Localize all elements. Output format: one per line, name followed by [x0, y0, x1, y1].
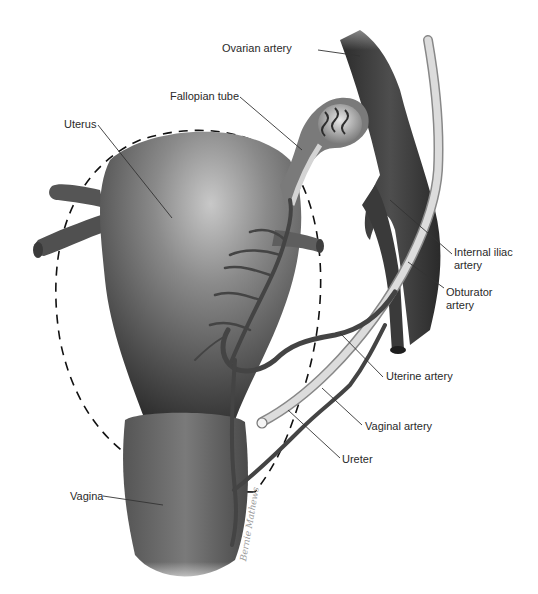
label-vaginal-artery: Vaginal artery: [365, 420, 432, 433]
ligament-stubs: [33, 184, 110, 258]
label-fallopian-tube: Fallopian tube: [170, 90, 239, 103]
fallopian-tube-ovary: [280, 98, 369, 215]
label-obturator-line1: Obturator: [446, 286, 492, 299]
label-internal-iliac-line1: Internal iliac: [454, 246, 513, 259]
label-vagina: Vagina: [70, 490, 103, 503]
label-uterine-artery: Uterine artery: [386, 370, 453, 383]
label-uterus: Uterus: [64, 118, 96, 131]
label-obturator-line2: artery: [446, 299, 492, 312]
anatomical-figure: Ovarian artery Fallopian tube Uterus Int…: [0, 0, 538, 594]
label-internal-iliac-artery: Internal iliac artery: [454, 246, 513, 272]
label-internal-iliac-line2: artery: [454, 259, 513, 272]
label-ovarian-artery: Ovarian artery: [222, 42, 292, 55]
label-ureter: Ureter: [342, 453, 373, 466]
label-obturator-artery: Obturator artery: [446, 286, 492, 312]
